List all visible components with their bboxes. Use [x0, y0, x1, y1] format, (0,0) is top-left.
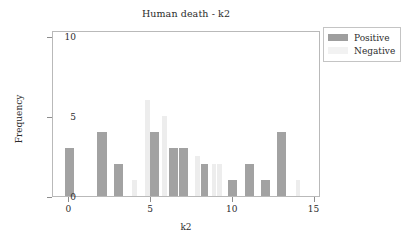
bar-pos-x6: [169, 148, 178, 196]
bar-neg-x8: [195, 156, 201, 196]
x-tick-mark: [314, 197, 315, 202]
bar-neg-x9: [217, 164, 221, 196]
chart-legend: Positive Negative: [323, 27, 401, 62]
positive-swatch-icon: [328, 34, 348, 41]
x-tick-mark: [150, 197, 151, 202]
bar-pos-x5: [150, 132, 159, 196]
x-tick-label: 0: [53, 204, 83, 214]
bar-pos-x10: [228, 180, 237, 196]
bar-neg-x9: [212, 164, 216, 196]
y-tick-label: 10: [46, 32, 76, 42]
x-tick-mark: [68, 197, 69, 202]
y-tick-label: 0: [46, 192, 76, 202]
bar-pos-x13: [277, 132, 286, 196]
chart-figure: Human death - k2 Frequency 0510051015 k2…: [0, 0, 414, 249]
x-tick-mark: [232, 197, 233, 202]
y-axis-label: Frequency: [14, 74, 24, 164]
bar-pos-x11: [245, 164, 254, 196]
chart-title: Human death - k2: [52, 8, 320, 19]
x-axis-label: k2: [52, 222, 320, 232]
bar-pos-x12: [261, 180, 270, 196]
bars-layer: [53, 32, 319, 196]
bar-neg-x5: [145, 100, 151, 196]
bar-neg-x14: [296, 180, 301, 196]
bar-pos-x0: [65, 148, 74, 196]
bar-pos-x3: [114, 164, 123, 196]
legend-label-negative: Negative: [354, 46, 395, 56]
bar-pos-x2: [97, 132, 106, 196]
x-tick-label: 15: [299, 204, 329, 214]
bar-pos-x8: [201, 164, 208, 196]
legend-item-positive: Positive: [328, 31, 395, 44]
x-tick-label: 5: [135, 204, 165, 214]
x-tick-label: 10: [217, 204, 247, 214]
legend-item-negative: Negative: [328, 44, 395, 57]
bar-neg-x6: [162, 116, 168, 196]
bar-pos-x7: [179, 148, 188, 196]
plot-area: [52, 31, 320, 197]
y-tick-label: 5: [46, 112, 76, 122]
legend-label-positive: Positive: [354, 33, 390, 43]
bar-neg-x4: [132, 180, 137, 196]
negative-swatch-icon: [328, 47, 348, 54]
